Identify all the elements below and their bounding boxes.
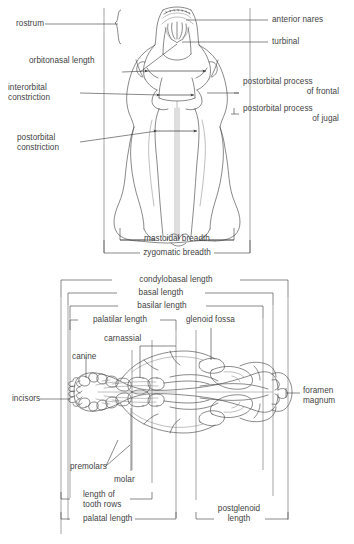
label-rostrum: rostrum xyxy=(16,19,44,29)
label-interorbital-constriction-line1: interorbital xyxy=(8,83,47,93)
ventral-skull-view xyxy=(40,280,300,534)
label-condylobasal-length: condylobasal length xyxy=(118,275,234,285)
label-foramen-magnum-line2: magnum xyxy=(303,396,335,406)
label-length-of-tooth-rows-line2: tooth rows xyxy=(83,500,121,510)
label-molar: molar xyxy=(114,475,135,485)
label-length-of-tooth-rows-line1: length of xyxy=(83,490,115,500)
label-palatal-length: palatal length xyxy=(83,514,132,524)
label-anterior-nares: anterior nares xyxy=(272,15,323,25)
label-carnassial: carnassial xyxy=(104,334,141,344)
label-interorbital-constriction-line2: constriction xyxy=(8,93,50,103)
label-postorbital-process-frontal-line1: postorbital process xyxy=(243,77,313,87)
label-postorbital-constriction-line2: constriction xyxy=(17,143,59,153)
label-basilar-length: basilar length xyxy=(122,301,202,311)
label-postorbital-process-jugal-line2: of jugal xyxy=(243,114,339,124)
label-premolars: premolars xyxy=(70,462,107,472)
label-glenoid-fossa: glenoid fossa xyxy=(186,315,235,325)
dorsal-skull-view xyxy=(45,7,268,253)
label-orbitonasal-length: orbitonasal length xyxy=(29,56,95,66)
label-postorbital-process-jugal-line1: postorbital process xyxy=(243,104,313,114)
label-canine: canine xyxy=(72,352,96,362)
label-zygomatic-breadth: zygomatic breadth xyxy=(130,248,224,258)
label-palatilar-length: palatilar length xyxy=(82,315,158,325)
label-postglenoid-length-line2: length xyxy=(209,514,269,524)
label-postorbital-process-frontal-line2: of frontal xyxy=(243,87,339,97)
label-turbinal: turbinal xyxy=(272,37,299,47)
label-basal-length: basal length xyxy=(123,288,199,298)
label-incisors: incisors xyxy=(12,394,40,404)
label-foramen-magnum-line1: foramen xyxy=(303,386,333,396)
label-postglenoid-length-line1: postglenoid xyxy=(209,504,269,514)
skull-measurement-figure: rostrum anterior nares turbinal orbitona… xyxy=(0,0,354,544)
label-postorbital-constriction-line1: postorbital xyxy=(17,133,55,143)
label-mastoidal-breadth: mastoidal breadth xyxy=(132,234,222,244)
